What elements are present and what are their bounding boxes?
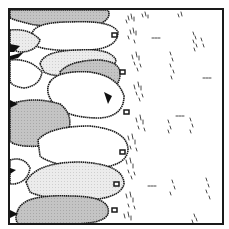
map-canvas xyxy=(0,0,229,229)
map-tile: Forest edge map tile xyxy=(0,0,229,229)
tree-canopy-region xyxy=(9,9,128,224)
grass-field xyxy=(124,12,211,223)
